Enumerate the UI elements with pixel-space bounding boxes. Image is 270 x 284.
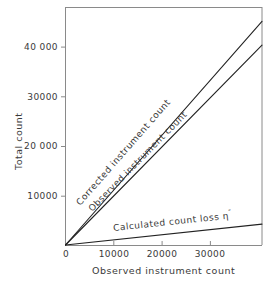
y-tick-label-40000: 40 000: [8, 42, 58, 52]
x-tick-label-0: 0: [55, 249, 77, 259]
x-tick-label-20000: 20000: [139, 249, 185, 259]
y-tick-label-10000: 10000: [8, 191, 58, 201]
x-axis-title: Observed instrument count: [92, 265, 235, 276]
y-tick-label-30000: 30000: [8, 92, 58, 102]
chart-figure: 10000 20 000 30000 40 000 0 10000 20000 …: [0, 0, 270, 284]
y-axis-title: Total count: [13, 112, 24, 170]
x-tick-label-10000: 10000: [91, 249, 137, 259]
x-tick-label-30000: 30000: [187, 249, 233, 259]
